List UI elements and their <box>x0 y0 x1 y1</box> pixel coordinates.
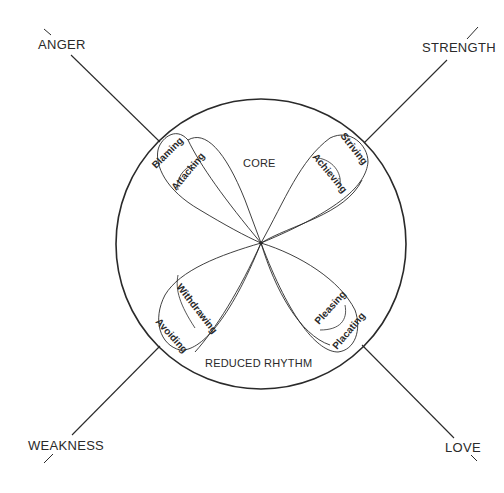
axis-label-weakness: WEAKNESS <box>28 438 104 453</box>
zone-label-core: CORE <box>243 157 276 169</box>
loop-label-achieving: Achieving <box>310 151 349 195</box>
axis-label-anger: ANGER <box>38 37 86 52</box>
axis-line-weakness <box>72 346 160 435</box>
loop-label-attacking: Attacking <box>169 150 207 192</box>
loop-label-withdrawing: Withdrawing <box>174 281 220 335</box>
axis-tick-strength <box>467 27 478 39</box>
loop-outer-lower-left-arc <box>195 243 261 352</box>
loop-label-avoiding: Avoiding <box>154 316 191 355</box>
axis-line-love <box>362 345 454 438</box>
axis-lines <box>44 27 478 463</box>
center-point <box>259 241 263 245</box>
loop-label-blaming: Blaming <box>150 135 186 171</box>
axis-tick-love <box>471 455 477 461</box>
axis-line-strength <box>364 60 447 143</box>
axis-label-love: LOVE <box>445 440 481 455</box>
zone-label-reduced-rhythm: REDUCED RHYTHM <box>205 357 312 369</box>
loop-outer-lower-right-arc <box>261 243 330 345</box>
loop-label-striving: Striving <box>338 130 370 166</box>
axis-line-anger <box>71 55 160 142</box>
axis-tick-weakness <box>44 454 53 463</box>
axis-tick-anger <box>44 29 51 35</box>
axis-label-strength: STRENGTH <box>422 40 496 55</box>
emotion-rhythm-diagram: ANGER STRENGTH WEAKNESS LOVE CORE REDUCE… <box>0 0 504 493</box>
loop-label-placating: Placating <box>330 310 367 351</box>
